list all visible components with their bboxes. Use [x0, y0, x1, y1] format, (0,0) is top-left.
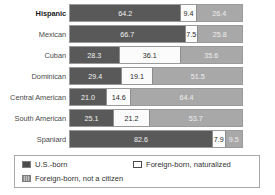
legend-item-foreign-born-naturalized: Foreign-born, naturalized — [133, 160, 231, 169]
legend-label: Foreign-born, not a citizen — [35, 174, 123, 183]
category-label-spaniard: Spaniard — [0, 135, 69, 144]
bar-spaniard: 82.6 7.9 9.5 — [69, 130, 243, 148]
category-label-central-american: Central American — [0, 93, 69, 102]
segment-foreign-not-citizen: 51.5 — [153, 68, 242, 84]
stacked-bar-chart: Hispanic 64.2 9.4 26.4 Mexican 66.7 7.5 … — [0, 0, 275, 195]
segment-foreign-not-citizen: 25.8 — [198, 26, 242, 42]
bar-central-american: 21.0 14.6 64.4 — [69, 88, 243, 106]
segment-us-born: 21.0 — [70, 89, 106, 105]
segment-foreign-naturalized: 7.5 — [185, 26, 198, 42]
white-outline-swatch-icon — [133, 161, 142, 168]
legend-item-foreign-born-not-a-citizen: Foreign-born, not a citizen — [22, 174, 123, 183]
bar-south-american: 25.1 21.2 53.7 — [69, 109, 243, 127]
chart-row: South American 25.1 21.2 53.7 — [0, 109, 275, 127]
legend-label: Foreign-born, naturalized — [146, 160, 231, 169]
segment-foreign-naturalized: 7.9 — [212, 131, 226, 147]
chart-row: Dominican 29.4 19.1 51.5 — [0, 67, 275, 85]
chart-row: Mexican 66.7 7.5 25.8 — [0, 25, 275, 43]
segment-us-born: 66.7 — [70, 26, 185, 42]
segment-foreign-not-citizen: 35.6 — [181, 47, 242, 63]
chart-row: Spaniard 82.6 7.9 9.5 — [0, 130, 275, 148]
segment-foreign-naturalized: 36.1 — [119, 47, 181, 63]
category-label-mexican: Mexican — [0, 30, 69, 39]
category-label-dominican: Dominican — [0, 72, 69, 81]
bar-hispanic: 64.2 9.4 26.4 — [69, 4, 243, 22]
segment-foreign-naturalized: 21.2 — [113, 110, 149, 126]
bar-cuban: 28.3 36.1 35.6 — [69, 46, 243, 64]
hatched-gray-swatch-icon — [22, 175, 31, 182]
segment-us-born: 29.4 — [70, 68, 121, 84]
bar-mexican: 66.7 7.5 25.8 — [69, 25, 243, 43]
chart-row: Central American 21.0 14.6 64.4 — [0, 88, 275, 106]
category-label-hispanic: Hispanic — [0, 9, 69, 18]
segment-foreign-naturalized: 19.1 — [121, 68, 154, 84]
segment-us-born: 64.2 — [70, 5, 180, 21]
category-label-cuban: Cuban — [0, 51, 69, 60]
segment-foreign-naturalized: 9.4 — [180, 5, 196, 21]
chart-row: Cuban 28.3 36.1 35.6 — [0, 46, 275, 64]
chart-row: Hispanic 64.2 9.4 26.4 — [0, 4, 275, 22]
segment-foreign-not-citizen: 53.7 — [150, 110, 242, 126]
legend-label: U.S.-born — [35, 160, 68, 169]
segment-foreign-not-citizen: 26.4 — [197, 5, 242, 21]
plot-area: Hispanic 64.2 9.4 26.4 Mexican 66.7 7.5 … — [0, 4, 275, 152]
chart-legend: U.S.-born Foreign-born, naturalized Fore… — [14, 155, 260, 188]
segment-us-born: 28.3 — [70, 47, 119, 63]
segment-foreign-naturalized: 14.6 — [106, 89, 131, 105]
category-label-south-american: South American — [0, 114, 69, 123]
segment-foreign-not-citizen: 9.5 — [226, 131, 242, 147]
segment-foreign-not-citizen: 64.4 — [131, 89, 242, 105]
bar-dominican: 29.4 19.1 51.5 — [69, 67, 243, 85]
legend-item-us-born: U.S.-born — [22, 160, 68, 169]
segment-us-born: 25.1 — [70, 110, 113, 126]
dark-solid-swatch-icon — [22, 161, 31, 168]
segment-us-born: 82.6 — [70, 131, 212, 147]
